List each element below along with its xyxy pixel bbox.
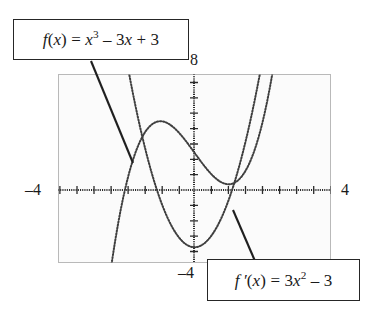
- y-axis-min-label: –4: [178, 265, 194, 281]
- figure-container: f(x) = x3 – 3x + 3 f ′(x) = 3x2 – 3 8 –4…: [0, 0, 369, 309]
- equation-f-prime-of-x: f ′(x) = 3x2 – 3: [232, 272, 336, 289]
- callout-f-prime-of-x[interactable]: f ′(x) = 3x2 – 3: [207, 259, 360, 301]
- x-axis-min-label: –4: [25, 182, 41, 198]
- x-axis-max-label: 4: [341, 182, 349, 198]
- plot-frame: [58, 74, 331, 263]
- callout-f-of-x[interactable]: f(x) = x3 – 3x + 3: [13, 19, 189, 60]
- equation-f-of-x: f(x) = x3 – 3x + 3: [40, 31, 162, 48]
- y-axis-max-label: 8: [190, 52, 198, 68]
